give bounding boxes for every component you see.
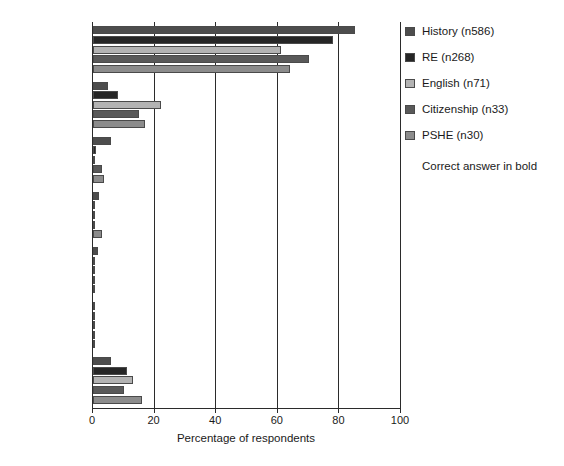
- bar-hungary-re: [93, 201, 95, 209]
- legend-swatch-icon-pshe: [405, 131, 415, 140]
- bar-poland-re: [93, 36, 333, 44]
- x-tick-40: [215, 408, 216, 413]
- x-tick-label-60: 60: [271, 414, 283, 426]
- x-tick-80: [338, 408, 339, 413]
- legend-item-english[interactable]: English (n71): [400, 70, 564, 96]
- bar-netherlands-pshe: [93, 340, 95, 348]
- legend-swatch-icon-re: [405, 53, 415, 62]
- bar-france-english: [93, 266, 95, 274]
- legend-label: English (n71): [422, 77, 490, 89]
- bar-france-history: [93, 247, 98, 255]
- x-tick-label-80: 80: [332, 414, 344, 426]
- bar-group-not-sure: [92, 357, 400, 403]
- bar-not-sure-citizenship: [93, 386, 124, 394]
- bar-group-ukraine: [92, 137, 400, 183]
- x-tick-100: [400, 408, 401, 413]
- legend-item-pshe[interactable]: PSHE (n30): [400, 122, 564, 148]
- x-tick-label-0: 0: [89, 414, 95, 426]
- bar-not-sure-re: [93, 367, 127, 375]
- x-tick-label-20: 20: [147, 414, 159, 426]
- bar-chart: 020406080100 PolandGermanyUkraineHungary…: [0, 0, 564, 466]
- bar-germany-citizenship: [93, 110, 139, 118]
- plot-area: [92, 22, 400, 408]
- bar-group-hungary: [92, 192, 400, 238]
- bar-ukraine-history: [93, 137, 111, 145]
- bar-germany-re: [93, 91, 118, 99]
- x-tick-60: [277, 408, 278, 413]
- bar-hungary-english: [93, 211, 95, 219]
- bar-not-sure-english: [93, 376, 133, 384]
- bar-group-germany: [92, 82, 400, 128]
- bar-poland-pshe: [93, 65, 290, 73]
- legend-label: RE (n268): [422, 51, 474, 63]
- bar-hungary-history: [93, 192, 99, 200]
- x-tick-label-100: 100: [391, 414, 409, 426]
- bar-france-pshe: [93, 285, 95, 293]
- bar-ukraine-english: [93, 156, 95, 164]
- bar-germany-history: [93, 82, 108, 90]
- chart-legend: History (n586)RE (n268)English (n71)Citi…: [400, 18, 564, 172]
- bar-netherlands-re: [93, 312, 95, 320]
- bar-hungary-citizenship: [93, 221, 95, 229]
- bar-not-sure-pshe: [93, 396, 142, 404]
- bar-group-france: [92, 247, 400, 293]
- legend-items: History (n586)RE (n268)English (n71)Citi…: [400, 18, 564, 148]
- legend-item-history[interactable]: History (n586): [400, 18, 564, 44]
- legend-item-re[interactable]: RE (n268): [400, 44, 564, 70]
- x-axis-line: [92, 408, 401, 409]
- legend-label: Citizenship (n33): [422, 103, 508, 115]
- bar-netherlands-english: [93, 321, 95, 329]
- bar-netherlands-history: [93, 302, 95, 310]
- legend-swatch-icon-citizenship: [405, 105, 415, 114]
- bar-poland-history: [93, 26, 355, 34]
- bar-ukraine-pshe: [93, 175, 104, 183]
- bar-poland-english: [93, 46, 281, 54]
- bar-group-poland: [92, 26, 400, 72]
- x-tick-20: [154, 408, 155, 413]
- bar-group-netherlands: [92, 302, 400, 348]
- bar-not-sure-history: [93, 357, 111, 365]
- bar-ukraine-citizenship: [93, 165, 102, 173]
- bar-germany-pshe: [93, 120, 145, 128]
- legend-item-citizenship[interactable]: Citizenship (n33): [400, 96, 564, 122]
- bar-france-re: [93, 257, 95, 265]
- bar-france-citizenship: [93, 276, 95, 284]
- legend-label: History (n586): [422, 25, 494, 37]
- x-axis-title: Percentage of respondents: [92, 432, 400, 444]
- bar-hungary-pshe: [93, 230, 102, 238]
- bar-poland-citizenship: [93, 55, 309, 63]
- bar-netherlands-citizenship: [93, 331, 95, 339]
- x-tick-0: [92, 408, 93, 413]
- x-tick-label-40: 40: [209, 414, 221, 426]
- bar-germany-english: [93, 101, 161, 109]
- legend-note: Correct answer in bold: [422, 160, 564, 172]
- legend-swatch-icon-english: [405, 79, 415, 88]
- legend-label: PSHE (n30): [422, 129, 483, 141]
- legend-swatch-icon-history: [405, 27, 415, 36]
- bar-ukraine-re: [93, 146, 96, 154]
